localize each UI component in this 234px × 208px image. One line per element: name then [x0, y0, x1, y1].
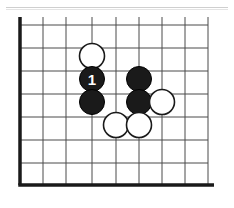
black-stone[interactable]: 1	[80, 67, 105, 92]
black-stone-disc	[80, 67, 105, 92]
white-stone-disc	[104, 113, 129, 138]
white-stone[interactable]	[104, 113, 129, 138]
board-grid-lines	[20, 17, 208, 185]
black-stone-disc	[80, 90, 105, 115]
white-stone[interactable]	[127, 113, 152, 138]
black-stone-disc	[127, 67, 152, 92]
go-board-canvas[interactable]: 1	[0, 0, 234, 208]
go-board[interactable]: 1	[0, 0, 234, 208]
white-stone-disc	[127, 113, 152, 138]
black-stone-disc	[127, 90, 152, 115]
white-stone[interactable]	[80, 44, 105, 69]
go-diagram-screenshot: 1	[0, 0, 234, 208]
black-stone[interactable]	[127, 67, 152, 92]
white-stone-disc	[150, 90, 175, 115]
stones-layer[interactable]: 1	[80, 44, 175, 138]
white-stone[interactable]	[150, 90, 175, 115]
black-stone[interactable]	[127, 90, 152, 115]
white-stone-disc	[80, 44, 105, 69]
black-stone[interactable]	[80, 90, 105, 115]
